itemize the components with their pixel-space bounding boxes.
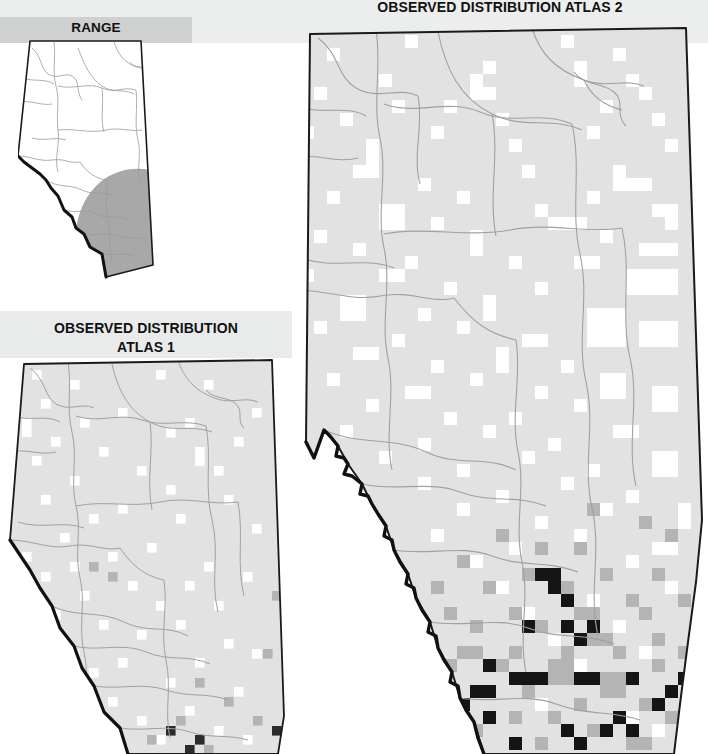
range-map-panel — [18, 38, 178, 288]
atlas2-map-svg — [288, 22, 708, 754]
range-map-svg — [18, 38, 178, 288]
atlas1-cell-grid — [8, 356, 300, 754]
atlas2-panel-title: OBSERVED DISTRIBUTION ATLAS 2 — [300, 0, 700, 17]
atlas1-map-panel — [8, 356, 300, 754]
atlas1-panel-title: OBSERVED DISTRIBUTION ATLAS 1 — [0, 319, 292, 357]
range-panel-title: RANGE — [0, 18, 192, 37]
atlas2-map-panel — [288, 22, 708, 754]
atlas2-cell-grid — [288, 22, 708, 754]
atlas1-map-svg — [8, 356, 300, 754]
atlas-figure-page: OBSERVED DISTRIBUTION ATLAS 2 RANGE OBSE… — [0, 0, 708, 754]
